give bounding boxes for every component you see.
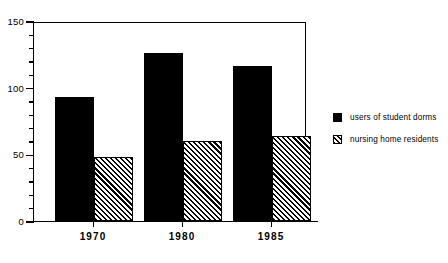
x-axis-tick — [93, 222, 94, 227]
y-axis-label: 150 — [0, 17, 24, 27]
legend-item-label: nursing home residents — [350, 135, 438, 144]
x-axis-label: 1985 — [241, 231, 301, 242]
y-axis-label-group: 150100500 — [0, 0, 24, 263]
x-axis-label: 1980 — [152, 231, 212, 242]
legend-item: nursing home residents — [333, 128, 448, 150]
bar-1985-series1 — [233, 66, 272, 221]
solid-black-swatch — [333, 113, 342, 122]
legend-item-label: users of student dorms — [350, 113, 437, 122]
y-axis-label: 100 — [0, 84, 24, 94]
plot-area — [33, 22, 306, 222]
x-axis-label: 1970 — [63, 231, 123, 242]
y-axis-label: 0 — [0, 217, 24, 227]
bar-1985-series2 — [272, 136, 311, 221]
x-axis-tick — [182, 222, 183, 227]
bar-1980-series1 — [144, 53, 183, 221]
chart-legend: users of student dormsnursing home resid… — [333, 106, 448, 150]
x-axis-extension — [306, 221, 318, 222]
x-axis-tick — [271, 222, 272, 227]
bar-1970-series1 — [55, 97, 94, 221]
legend-item: users of student dorms — [333, 106, 448, 128]
y-axis-label: 50 — [0, 150, 24, 160]
bar-chart-figure: 150100500 197019801985 users of student … — [0, 0, 448, 263]
bar-1970-series2 — [94, 157, 133, 221]
hatched-swatch — [333, 135, 342, 144]
bar-1980-series2 — [183, 141, 222, 221]
